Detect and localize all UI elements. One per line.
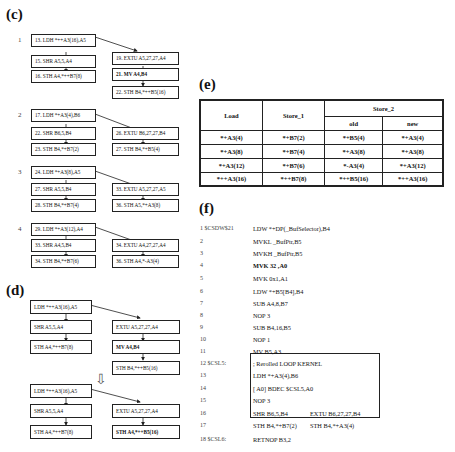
group-number: 2 <box>18 111 22 119</box>
instruction-box: 19. EXTU A5,27,27,A4 <box>112 52 179 65</box>
cell: *+A3(4) <box>383 130 443 144</box>
code-line: LDW *+DP(_BufSelector),B4 <box>253 225 330 232</box>
code-line: MVKL _BufPtr,B5 <box>253 238 302 245</box>
cell: *+A3(4) <box>200 130 263 144</box>
instruction-box: 33. SHR A4,5,B4 <box>31 239 96 252</box>
line-number: 15 <box>200 397 206 403</box>
code-line: [ A0] BDEC $CSL5,A0 <box>253 385 313 392</box>
line-number: 1 $CSDW$21 <box>200 225 234 231</box>
cell: *+A3(12) <box>383 158 443 172</box>
table-row: *+A3(8) *+B7(4) *+A3(8) *+A3(8) <box>200 144 443 158</box>
instruction-box: STH A4,*++B5(16) <box>112 425 180 439</box>
line-number: 3 <box>200 250 203 256</box>
instruction-box: STH A4,*++B7(8) <box>30 340 92 354</box>
instruction-box: 21. MV A4,B4 <box>112 68 179 81</box>
instruction-box: 34. STH B4,*+B7(6) <box>31 255 96 268</box>
header-load: Load <box>200 100 263 130</box>
group-number: 4 <box>18 225 22 233</box>
instruction-box: 16. STH A4,*++B7(8) <box>31 70 96 83</box>
group-number: 3 <box>18 168 22 176</box>
code-line: NOP 3 <box>253 312 270 319</box>
instruction-box: 22. STH B4,*++B5(16) <box>112 86 179 99</box>
line-number: 16 <box>200 410 206 416</box>
instruction-box: 13. LDH *++A3(16),A5 <box>31 34 96 47</box>
code-line-parallel: EXTU B6,27,27,B4 <box>310 410 360 417</box>
transform-arrow-icon: ⇩ <box>95 371 107 388</box>
header-store1: Store_1 <box>263 100 325 130</box>
line-number: 8 <box>200 312 203 318</box>
code-line-parallel: STH B4,*+A3(4) <box>310 422 354 429</box>
cell: *+B7(6) <box>263 158 325 172</box>
instruction-box: 36. STH A4,*-A3(4) <box>112 255 179 268</box>
cell: *+A3(12) <box>200 158 263 172</box>
instruction-box: 27. STH B4,*+B5(4) <box>112 143 179 156</box>
code-line: LDW *+B5[B4],B4 <box>253 288 303 295</box>
line-number: 12 $CSL5: <box>200 360 226 366</box>
instruction-box: 34. EXTU A4,27,27,A4 <box>112 239 179 252</box>
instruction-box: 15. SHR A5,5,A4 <box>31 55 96 68</box>
code-line: NOP 3 <box>253 397 270 404</box>
cell: *+A3(8) <box>325 144 383 158</box>
code-line: SUB A4,8,B7 <box>253 300 288 307</box>
code-line: LDH *+A3(4),B6 <box>253 372 298 379</box>
code-line: MVK 32 ,A0 <box>253 262 287 269</box>
code-line: ; Rerolled LOOP KERNEL <box>253 360 322 367</box>
instruction-box: 33. EXTU A5,27,27,A5 <box>112 183 179 196</box>
header-store2: Store_2 <box>325 100 444 116</box>
line-number: 10 <box>200 336 206 342</box>
instruction-box: SHR A5,5,A4 <box>30 320 92 334</box>
instruction-box: 22. SHR B6,5,B4 <box>31 127 96 140</box>
instruction-box: 23. STH B4,*+B7(2) <box>31 143 96 156</box>
line-number: 13 <box>200 372 206 378</box>
cell: *++B5(16) <box>325 172 383 186</box>
line-number: 14 <box>200 385 206 391</box>
instruction-box: STH B4,*++B5(16) <box>112 361 180 375</box>
line-number: 17 <box>200 422 206 428</box>
line-number: 11 <box>200 348 206 354</box>
group-number: 1 <box>18 36 22 44</box>
cell: *-A3(4) <box>325 158 383 172</box>
line-number: 2 <box>200 238 203 244</box>
code-line: STH B4,*+B7(2) <box>253 422 297 429</box>
code-line: MVKH _BufPtr,B5 <box>253 250 302 257</box>
instruction-box: 26. EXTU B6,27,27,B4 <box>112 127 179 140</box>
line-number: 5 <box>200 275 203 281</box>
line-number: 7 <box>200 300 203 306</box>
cell: *++A3(16) <box>200 172 263 186</box>
line-number: 9 <box>200 324 203 330</box>
line-number: 4 <box>200 262 203 268</box>
header-old: old <box>325 116 383 130</box>
table-row: *++A3(16) *++B7(8) *++B5(16) *++A3(16) <box>200 172 443 186</box>
instruction-box: 27. SHR A5,5,B4 <box>31 183 96 196</box>
cell: *+B7(2) <box>263 130 325 144</box>
instruction-box: 17. LDH *+A3(4),B6 <box>31 109 96 122</box>
table-row: *+A3(4) *+B7(2) *+B5(4) *+A3(4) <box>200 130 443 144</box>
code-line: MV B5,A3 <box>253 348 281 355</box>
instruction-box: EXTU A5,27,27,A4 <box>112 320 180 334</box>
instruction-box: LDH *++A3(16),A5 <box>30 384 92 398</box>
instruction-box: 24. LDH *+A3(8),A5 <box>31 166 96 179</box>
code-line: RETNOP B3,2 <box>253 436 291 443</box>
instruction-box: LDH *++A3(16),A5 <box>30 300 92 314</box>
line-number: 6 <box>200 288 203 294</box>
instruction-box: 29. LDH *+A3(12),A4 <box>31 223 96 236</box>
instruction-box: MV A4,B4 <box>112 340 180 354</box>
cell: *+A3(8) <box>200 144 263 158</box>
cell: *+B7(4) <box>263 144 325 158</box>
header-new: new <box>383 116 443 130</box>
cell: *++B7(8) <box>263 172 325 186</box>
instruction-box: 28. STH B4,*+B7(4) <box>31 199 96 212</box>
addressing-table: Load Store_1 Store_2 old new *+A3(4) *+B… <box>199 99 444 187</box>
code-line: SHR B6,5,B4 <box>253 410 288 417</box>
line-number: 18 $CSL6: <box>200 436 226 442</box>
code-line: NOP 1 <box>253 336 270 343</box>
instruction-box: EXTU A5,27,27,A4 <box>112 404 180 418</box>
instruction-box: 36. STH A5,*+A3(8) <box>112 199 179 212</box>
code-line: MVK 0x1,A1 <box>253 275 288 282</box>
table-row: *+A3(12) *+B7(6) *-A3(4) *+A3(12) <box>200 158 443 172</box>
code-line: SUB B4,16,B5 <box>253 324 291 331</box>
cell: *+B5(4) <box>325 130 383 144</box>
cell: *+A3(8) <box>383 144 443 158</box>
instruction-box: STH A4,*++B7(8) <box>30 425 92 439</box>
instruction-box: SHR A5,5,A4 <box>30 404 92 418</box>
